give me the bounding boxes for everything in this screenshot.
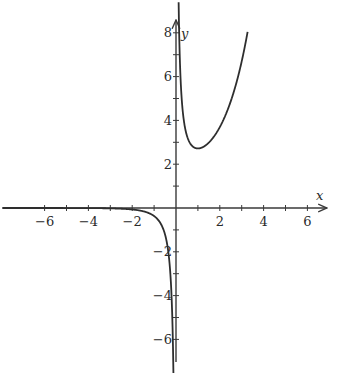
curve-left-branch	[3, 208, 173, 373]
function-plot: −6−4−22468642−2−4−6 x y	[0, 0, 345, 387]
curve-right-branch	[179, 2, 248, 148]
x-tick-label: −4	[79, 214, 98, 229]
x-tick-label: −2	[123, 214, 142, 229]
x-tick-label: 4	[259, 214, 267, 229]
y-axis-label: y	[180, 26, 189, 41]
x-tick-label: 6	[303, 214, 311, 229]
y-tick-label: 2	[164, 157, 172, 172]
y-tick-label: −4	[153, 288, 172, 303]
function-curves	[3, 2, 248, 373]
x-tick-label: −6	[35, 214, 54, 229]
y-tick-label: 4	[164, 113, 172, 128]
x-tick-label: 2	[216, 214, 224, 229]
y-tick-label: 6	[164, 69, 172, 84]
y-tick-label: 8	[164, 25, 172, 40]
x-axis-label: x	[316, 188, 324, 203]
y-tick-label: −6	[153, 332, 172, 347]
